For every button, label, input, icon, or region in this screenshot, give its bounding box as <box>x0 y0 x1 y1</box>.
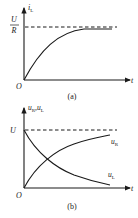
origin-label-a: O <box>16 82 22 91</box>
curve-uL <box>24 130 110 185</box>
chart-b: uR,uL U uR uL O t (b) <box>10 103 134 211</box>
y-label-a: iL <box>28 3 33 13</box>
series-label-uL: uL <box>108 170 115 180</box>
origin-label-b: O <box>16 191 22 200</box>
asymptote-label-den: R <box>11 26 17 35</box>
caption-a: (a) <box>68 92 77 101</box>
asymptote-label-num: U <box>11 15 18 24</box>
y-label-b: uR,uL <box>28 103 44 113</box>
series-label-uR: uR <box>111 137 119 147</box>
rl-transient-diagram: iL U R O t (a) uR,uL U uR uL O t (b) <box>0 0 138 218</box>
asymptote-label-b: U <box>10 126 17 135</box>
curve-iL <box>24 29 112 80</box>
chart-a: iL U R O t (a) <box>10 3 134 101</box>
x-label-a: t <box>131 76 134 85</box>
curve-uR <box>24 135 110 188</box>
x-label-b: t <box>131 184 134 193</box>
caption-b: (b) <box>67 202 77 211</box>
